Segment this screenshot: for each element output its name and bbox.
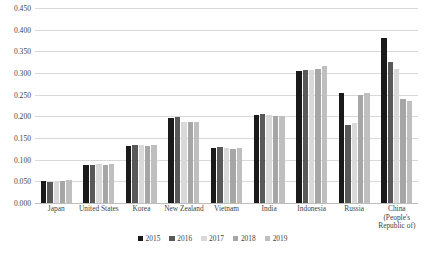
bar-group — [163, 8, 206, 203]
bar — [194, 122, 199, 203]
bar — [339, 93, 344, 204]
bar — [83, 165, 88, 203]
bar — [60, 181, 65, 203]
chart-legend: 20152016201720182019 — [0, 234, 425, 243]
legend-item[interactable]: 2015 — [138, 234, 161, 243]
legend-label: 2019 — [273, 234, 288, 243]
x-axis-label: Russia — [333, 205, 376, 231]
bar — [266, 115, 271, 203]
bar — [254, 115, 259, 203]
legend-label: 2016 — [177, 234, 192, 243]
bar — [394, 69, 399, 203]
bar — [54, 181, 59, 203]
bar-group — [290, 8, 333, 203]
legend-swatch-icon — [265, 236, 271, 242]
x-axis-labels: JapanUnited StatesKoreaNew ZealandVietna… — [35, 205, 418, 231]
bar — [139, 145, 144, 203]
legend-item[interactable]: 2016 — [169, 234, 192, 243]
bar-group — [205, 8, 248, 203]
bar — [132, 145, 137, 203]
y-axis-tick-label: 0.400 — [0, 25, 31, 34]
bar-chart: 0.4500.4000.3500.3000.2500.2000.1500.100… — [0, 0, 425, 256]
bar — [211, 148, 216, 203]
bar — [230, 149, 235, 203]
chart-title — [0, 0, 425, 2]
bar — [217, 147, 222, 203]
legend-item[interactable]: 2017 — [201, 234, 224, 243]
y-axis-tick-label: 0.450 — [0, 4, 31, 13]
bar-group — [78, 8, 121, 203]
bar — [381, 38, 386, 203]
legend-item[interactable]: 2018 — [233, 234, 256, 243]
bar — [345, 125, 350, 203]
y-axis-tick-label: 0.150 — [0, 134, 31, 143]
legend-label: 2015 — [146, 234, 161, 243]
bar — [47, 182, 52, 203]
x-axis-label: Vietnam — [205, 205, 248, 231]
y-axis-tick-label: 0.050 — [0, 177, 31, 186]
bar — [322, 66, 327, 203]
bar — [303, 70, 308, 203]
y-axis-tick-label: 0.000 — [0, 199, 31, 208]
bar — [273, 116, 278, 203]
bar — [103, 165, 108, 203]
bar — [224, 148, 229, 203]
bar-groups — [35, 8, 418, 203]
bar — [41, 181, 46, 203]
bar-group — [120, 8, 163, 203]
y-axis-tick-label: 0.200 — [0, 112, 31, 121]
bar — [260, 114, 265, 203]
bar — [400, 99, 405, 203]
bar — [151, 145, 156, 203]
x-axis-label: New Zealand — [163, 205, 206, 231]
bar — [145, 146, 150, 203]
bar — [90, 165, 95, 203]
bar — [109, 164, 114, 203]
bar — [279, 116, 284, 203]
bar — [315, 69, 320, 203]
legend-item[interactable]: 2019 — [265, 234, 288, 243]
x-axis-label: Indonesia — [290, 205, 333, 231]
bar-group — [376, 8, 419, 203]
y-axis-tick-label: 0.100 — [0, 155, 31, 164]
bar — [296, 71, 301, 203]
plot-area — [35, 8, 418, 203]
bar — [309, 70, 314, 203]
x-axis-label: United States — [78, 205, 121, 231]
bar-group — [35, 8, 78, 203]
bar — [126, 146, 131, 203]
bar — [168, 118, 173, 203]
bar — [175, 117, 180, 203]
y-axis-tick-label: 0.250 — [0, 90, 31, 99]
legend-label: 2018 — [241, 234, 256, 243]
bar — [407, 101, 412, 203]
bar — [364, 93, 369, 204]
bar — [96, 164, 101, 203]
legend-swatch-icon — [201, 236, 207, 242]
bar-group — [333, 8, 376, 203]
y-axis-tick-label: 0.300 — [0, 69, 31, 78]
x-axis-label: Japan — [35, 205, 78, 231]
bar — [358, 95, 363, 203]
bar — [181, 122, 186, 203]
bar — [188, 122, 193, 203]
y-axis-tick-label: 0.350 — [0, 47, 31, 56]
x-axis-label: India — [248, 205, 291, 231]
bar-group — [248, 8, 291, 203]
bar — [352, 123, 357, 203]
legend-swatch-icon — [138, 236, 144, 242]
bar — [237, 148, 242, 203]
bar — [388, 62, 393, 203]
x-axis-label: Korea — [120, 205, 163, 231]
legend-swatch-icon — [169, 236, 175, 242]
legend-swatch-icon — [233, 236, 239, 242]
x-axis-label: China (People's Republic of) — [376, 205, 419, 231]
legend-label: 2017 — [209, 234, 224, 243]
bar — [66, 180, 71, 203]
